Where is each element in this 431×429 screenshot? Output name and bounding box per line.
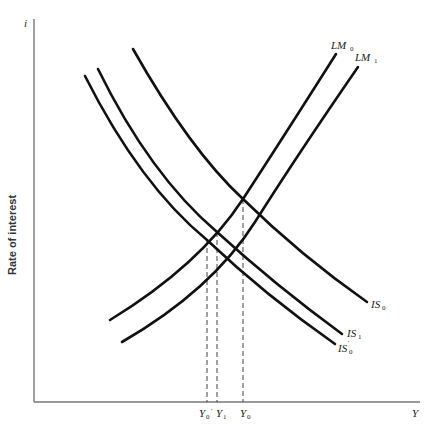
svg-text:0: 0	[247, 413, 251, 421]
svg-text:IS: IS	[337, 342, 348, 354]
y0prime-tick-label: Y 0 ′	[199, 407, 213, 421]
y1-tick-label: Y 1	[216, 407, 227, 421]
is-lm-diagram: i Rate of interest Y LM 0 LM 1 IS 0 IS 1…	[0, 0, 431, 429]
svg-text:1: 1	[374, 57, 378, 65]
svg-text:LM: LM	[354, 51, 371, 63]
svg-text:IS: IS	[346, 327, 357, 339]
x-axis-symbol: Y	[412, 407, 420, 419]
lm0-curve	[110, 54, 336, 320]
lm1-label: LM 1	[354, 51, 378, 65]
svg-text:1: 1	[223, 413, 227, 421]
y-axis-symbol: i	[24, 17, 27, 29]
svg-text:0: 0	[206, 413, 210, 421]
svg-text:0: 0	[350, 45, 354, 53]
is0prime-label: IS 0 ′	[337, 339, 353, 356]
is1-curve	[98, 69, 342, 334]
is0-curve	[133, 49, 367, 302]
is0-label: IS 0	[370, 298, 386, 312]
lm0-label: LM 0	[330, 39, 354, 53]
svg-text:1: 1	[358, 333, 362, 341]
svg-text:′: ′	[211, 407, 213, 415]
svg-text:0: 0	[349, 348, 353, 356]
svg-text:IS: IS	[370, 298, 381, 310]
svg-text:0: 0	[382, 304, 386, 312]
svg-text:LM: LM	[330, 39, 347, 51]
y-axis-label: Rate of interest	[6, 195, 18, 275]
svg-text:′: ′	[348, 339, 350, 347]
y0-tick-label: Y 0	[240, 407, 251, 421]
